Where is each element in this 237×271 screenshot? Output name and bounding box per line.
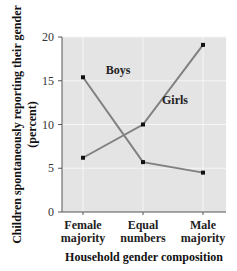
y-tick-label: 20 <box>42 30 54 44</box>
series-label-boys: Boys <box>106 63 131 77</box>
data-point-marker <box>201 171 205 175</box>
x-tick-label: numbers <box>120 231 166 245</box>
data-point-marker <box>81 75 85 79</box>
x-tick-label: Male <box>190 218 217 232</box>
x-tick-label: Female <box>64 218 102 232</box>
y-tick-label: 10 <box>42 118 54 132</box>
y-tick-label: 15 <box>42 74 54 88</box>
line-chart: 05101520 FemalemajorityEqualnumbersMalem… <box>0 0 237 271</box>
y-tick-label: 5 <box>48 161 54 175</box>
x-axis-title: Household gender composition <box>65 250 223 264</box>
x-tick-labels: FemalemajorityEqualnumbersMalemajority <box>61 218 226 245</box>
data-point-marker <box>141 160 145 164</box>
x-tick-label: majority <box>181 231 226 245</box>
data-point-marker <box>201 43 205 47</box>
svg-text:(percent): (percent) <box>25 101 39 147</box>
x-tick-label: majority <box>61 231 106 245</box>
data-point-marker <box>81 156 85 160</box>
y-tick-label: 0 <box>48 205 54 219</box>
series-label-girls: Girls <box>162 93 188 107</box>
svg-text:Children spontaneously reporti: Children spontaneously reporting their g… <box>10 4 24 243</box>
x-tick-label: Equal <box>128 218 159 232</box>
y-tick-labels: 05101520 <box>42 30 54 219</box>
data-point-marker <box>141 123 145 127</box>
y-axis-title: Children spontaneously reporting their g… <box>10 4 39 243</box>
